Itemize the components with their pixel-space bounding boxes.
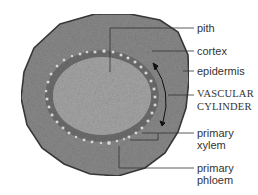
label-primary-xylem-line1: primary	[197, 127, 234, 139]
pith-region	[53, 57, 151, 135]
label-cortex: cortex	[197, 45, 227, 57]
label-primary-xylem-line2: xylem	[197, 139, 226, 151]
label-primary-phloem-line2: phloem	[197, 174, 233, 186]
label-epidermis: epidermis	[197, 65, 245, 77]
label-vascular-cylinder-line1: VASCULAR	[197, 88, 254, 100]
label-vascular-cylinder-line2: CYLINDER	[197, 101, 252, 113]
label-primary-phloem-line1: primary	[197, 162, 234, 174]
stem-cross-section-diagram: pith cortex epidermis VASCULAR CYLINDER …	[0, 0, 258, 195]
label-pith: pith	[197, 22, 215, 34]
